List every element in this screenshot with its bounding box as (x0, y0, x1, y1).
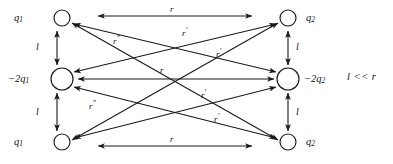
node-left-bottom (54, 134, 70, 150)
distance-label-upper-diagonal-up: r′ (216, 48, 221, 59)
distance-label-top-horizontal: r (170, 3, 174, 14)
distance-label-middle-horizontal: r (160, 64, 164, 75)
charge-label-left-middle: −2q1 (8, 74, 29, 85)
distance-label-long-diagonal-down: r″ (113, 35, 120, 46)
charge-label-left-top: q1 (14, 13, 23, 24)
distance-label-lower-diagonal-up: r′ (201, 89, 206, 100)
distance-label-bottom-horizontal: r (170, 133, 174, 144)
separation-label-left-upper: l (36, 42, 39, 52)
charge-label-right-bottom: q2 (306, 137, 315, 148)
node-left-top (54, 10, 70, 26)
charge-dipole-diagram: q1 −2q1 q1 q2 −2q2 q2 l l l l r r r r′ r… (0, 0, 393, 164)
separation-label-right-lower: l (296, 107, 299, 117)
charge-label-right-top: q2 (306, 13, 315, 24)
node-right-middle (277, 68, 299, 90)
separation-label-left-lower: l (36, 107, 39, 117)
distance-label-upper-diagonal-down: r′ (182, 27, 187, 38)
node-right-bottom (280, 134, 296, 150)
separation-label-right-upper: l (296, 42, 299, 52)
distance-label-long-diagonal-up: r″ (89, 100, 96, 111)
condition-annotation: l << r (347, 72, 376, 83)
charge-label-left-bottom: q1 (14, 137, 23, 148)
node-right-top (280, 10, 296, 26)
diagram-canvas (0, 0, 393, 164)
distance-label-lower-diagonal-down: r′ (214, 113, 219, 124)
charge-label-right-middle: −2q2 (304, 74, 325, 85)
node-left-middle (51, 68, 73, 90)
